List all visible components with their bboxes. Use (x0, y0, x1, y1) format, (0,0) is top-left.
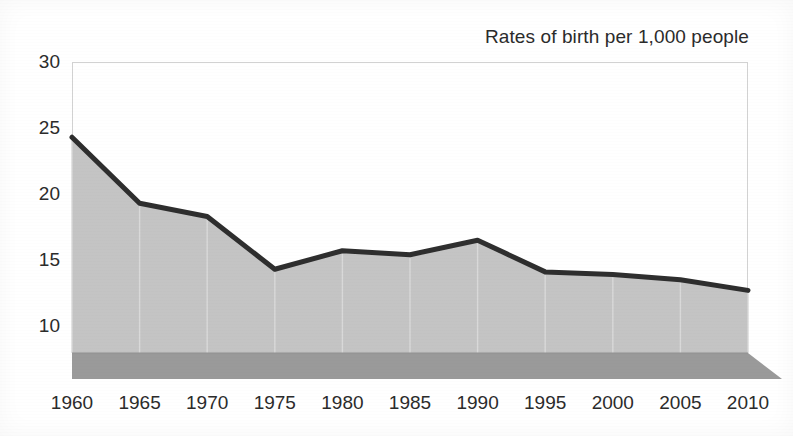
x-tick-label-1990: 1990 (456, 392, 498, 414)
x-tick-label-1965: 1965 (118, 392, 160, 414)
x-tick-label-2005: 2005 (659, 392, 701, 414)
x-tick-label-1960: 1960 (51, 392, 93, 414)
x-tick-label-2000: 2000 (592, 392, 634, 414)
x-tick-label-1995: 1995 (524, 392, 566, 414)
base-plinth-3d (72, 353, 782, 379)
x-tick-label-1970: 1970 (186, 392, 228, 414)
chart-container: Rates of birth per 1,000 people 30 25 20… (0, 0, 793, 436)
chart-graphics (0, 0, 793, 436)
x-tick-label-1985: 1985 (389, 392, 431, 414)
x-tick-label-2010: 2010 (727, 392, 769, 414)
x-tick-label-1975: 1975 (254, 392, 296, 414)
x-tick-label-1980: 1980 (321, 392, 363, 414)
